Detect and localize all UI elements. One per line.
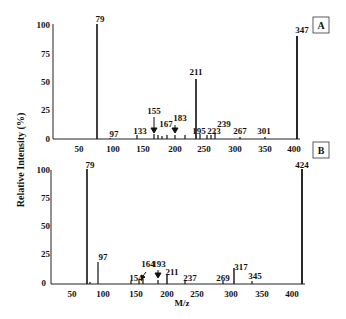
panel-a-xtick: 150 bbox=[136, 144, 150, 154]
panel-b-ytick: 50 bbox=[41, 221, 51, 231]
panel-b-ytick: 0 bbox=[42, 278, 47, 288]
panel-b-xtick: 50 bbox=[68, 289, 78, 299]
peak-label: 317 bbox=[234, 262, 248, 272]
panel-a-ytick: 75 bbox=[41, 49, 51, 59]
panel-b-xtick: 300 bbox=[224, 289, 238, 299]
peak-label: 267 bbox=[233, 126, 247, 136]
panel-a: 100 75 50 25 0 50 100 150 200 250 300 35… bbox=[37, 14, 330, 154]
panel-a-ytick: 25 bbox=[41, 105, 51, 115]
peak-label: 237 bbox=[183, 273, 197, 283]
peak-label: 97 bbox=[99, 252, 109, 262]
panel-a-label: A bbox=[317, 20, 325, 31]
panel-b-label: B bbox=[318, 145, 325, 156]
peak-label: 301 bbox=[257, 126, 271, 136]
peak-label: 424 bbox=[295, 160, 309, 170]
peak-label: 79 bbox=[96, 14, 106, 24]
peak-label: 154 bbox=[129, 273, 143, 283]
panel-b-xtick: 100 bbox=[96, 289, 110, 299]
panel-b-xtick: 400 bbox=[285, 289, 299, 299]
panel-a-xtick: 350 bbox=[258, 144, 272, 154]
panel-a-ytick: 0 bbox=[46, 134, 51, 144]
peak-label: 167 bbox=[159, 119, 173, 129]
peak-label: 239 bbox=[217, 119, 231, 129]
panel-a-xtick: 400 bbox=[287, 144, 301, 154]
peak-label: 133 bbox=[133, 126, 147, 136]
panel-a-peaks bbox=[97, 24, 297, 139]
panel-b-ytick: 75 bbox=[41, 193, 51, 203]
panel-a-ytick: 50 bbox=[41, 77, 51, 87]
panel-b-xtick: 200 bbox=[160, 289, 174, 299]
panel-b-ytick: 100 bbox=[37, 165, 51, 175]
panel-b-xtick: 350 bbox=[255, 289, 269, 299]
peak-label: 347 bbox=[295, 25, 309, 35]
panel-b-xtick: 250 bbox=[190, 289, 204, 299]
peak-label: 195 bbox=[192, 126, 206, 136]
panel-a-xtick: 200 bbox=[168, 144, 182, 154]
peak-label: 211 bbox=[189, 67, 203, 77]
panel-b-ytick: 25 bbox=[41, 249, 51, 259]
peak-label: 97 bbox=[110, 129, 120, 139]
panel-a-xtick: 50 bbox=[75, 144, 85, 154]
panel-b-xtick: 150 bbox=[129, 289, 143, 299]
panel-a-ytick: 100 bbox=[37, 20, 51, 30]
x-axis-label: M/z bbox=[175, 298, 190, 308]
peak-label: 269 bbox=[216, 273, 230, 283]
peak-label: 155 bbox=[147, 106, 161, 116]
panel-a-xtick: 100 bbox=[106, 144, 120, 154]
panel-a-xtick: 300 bbox=[228, 144, 242, 154]
panel-b-peaks bbox=[87, 169, 302, 284]
peak-label: 345 bbox=[248, 271, 262, 281]
panel-b: 100 75 50 25 0 50 100 150 200 250 300 35… bbox=[37, 142, 330, 308]
peak-label: 183 bbox=[173, 113, 187, 123]
peak-label: 79 bbox=[86, 160, 96, 170]
mass-spectra-figure: Relative Intensity (%) 100 75 50 25 0 50… bbox=[0, 0, 346, 319]
y-axis-label: Relative Intensity (%) bbox=[15, 113, 27, 207]
peak-label: 211 bbox=[165, 267, 179, 277]
panel-b-arrows bbox=[141, 270, 161, 279]
panel-a-xtick: 250 bbox=[197, 144, 211, 154]
peak-label: 193 bbox=[152, 259, 166, 269]
